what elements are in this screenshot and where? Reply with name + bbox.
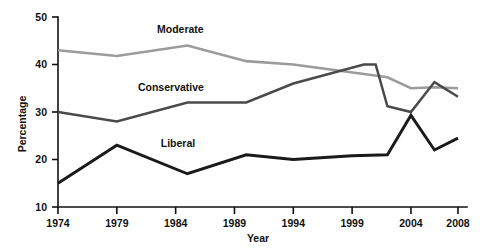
x-tick-label: 1994 — [282, 217, 306, 229]
series-lines — [58, 46, 458, 184]
y-tick-label: 30 — [35, 106, 47, 118]
y-tick-label: 50 — [35, 11, 47, 23]
series-label-conservative: Conservative — [138, 81, 204, 93]
y-axis-tick-labels: 1020304050 — [35, 11, 47, 213]
x-tick-label: 2008 — [446, 217, 470, 229]
x-axis-tick-labels: 19741979198419891994199920042008 — [46, 217, 470, 229]
x-tick-label: 1974 — [46, 217, 70, 229]
series-label-moderate: Moderate — [157, 23, 204, 35]
x-tick-label: 1979 — [105, 217, 129, 229]
series-label-liberal: Liberal — [161, 137, 196, 149]
y-axis-ticks — [52, 17, 58, 207]
series-line-moderate — [58, 46, 458, 89]
series-inline-labels: ModerateConservativeLiberal — [138, 23, 204, 149]
x-axis-ticks — [58, 207, 458, 214]
y-tick-label: 40 — [35, 58, 47, 70]
series-line-conservative — [58, 65, 458, 122]
x-tick-label: 1999 — [340, 217, 364, 229]
x-tick-label: 2004 — [399, 217, 423, 229]
y-tick-label: 10 — [35, 201, 47, 213]
x-tick-label: 1984 — [164, 217, 188, 229]
chart-container: 1020304050 19741979198419891994199920042… — [0, 0, 497, 249]
x-axis-title: Year — [247, 232, 269, 244]
line-chart: 1020304050 19741979198419891994199920042… — [0, 0, 497, 249]
x-tick-label: 1989 — [223, 217, 247, 229]
y-axis-title: Percentage — [16, 96, 28, 153]
series-line-liberal — [58, 115, 458, 183]
y-tick-label: 20 — [35, 153, 47, 165]
